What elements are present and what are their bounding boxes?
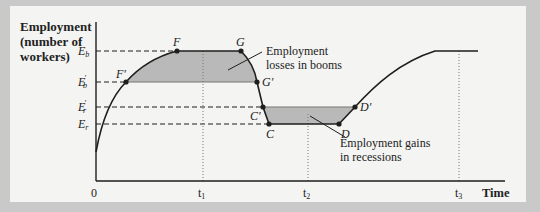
boom-note-line1: Employment [266,44,329,58]
point-D [336,121,341,126]
label-F-prime: F′ [115,67,126,81]
label-G-prime: G′ [262,75,274,89]
tick-t2: t2 [303,186,310,201]
point-G [238,48,243,53]
recession-note-line2: in recessions [340,150,402,164]
label-G: G [236,35,245,49]
label-D-prime: D′ [359,100,372,114]
recession-note-line1: Employment gains [340,136,431,150]
x-axis-title: Time [482,186,510,200]
label-C-prime: C′ [250,109,261,123]
point-D-prime [352,104,357,109]
point-G-prime [254,79,259,84]
level-label-Eb-prime: E′b [77,74,87,90]
label-F: F [172,35,181,49]
origin-label: 0 [91,186,97,200]
point-F [174,48,179,53]
level-label-Eb: Eb [77,44,89,59]
tick-t3: t3 [455,186,462,201]
point-C-prime [260,104,265,109]
label-C: C [266,127,275,141]
boom-note-line2: losses in booms [266,58,342,72]
chart-svg: F G F′ G′ C′ C D D′ Eb E′b E′r Er 0 t1 t… [0,0,540,212]
boom-losses-region [126,51,257,82]
tick-t1: t1 [198,186,205,201]
level-label-Er: Er [77,117,89,132]
point-C [266,121,271,126]
level-label-Er-prime: E′r [77,99,87,115]
